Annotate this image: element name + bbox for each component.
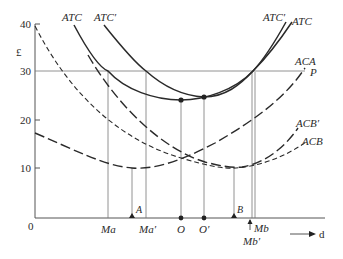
label-p: P: [309, 66, 317, 78]
label-ma: Ma: [100, 223, 116, 235]
label-mb-prime: Mb′: [242, 235, 261, 247]
y-unit-label: £: [16, 46, 22, 58]
y-ticks: [35, 24, 40, 168]
atc-prime-min-dot: [201, 94, 206, 99]
y-tick-10: 10: [20, 162, 32, 174]
aca-curve: [35, 68, 305, 168]
mb-prime-arrow-icon: [248, 219, 253, 224]
acb-prime-curve: [88, 55, 298, 167]
label-atc-prime-right: ATC′: [262, 11, 286, 23]
label-atc-left: ATC: [61, 11, 82, 23]
label-d: d: [319, 228, 325, 240]
atc-prime-curve: [104, 22, 286, 97]
label-acb-prime: ACB′: [295, 117, 320, 129]
label-a: A: [135, 204, 143, 215]
cost-curves-diagram: 40 30 20 10 0 £ Ma Ma′ O O′ A B Mb Mb′: [0, 0, 343, 259]
acb-curve: [35, 26, 306, 168]
o-axis-dot: [179, 216, 184, 221]
y-tick-40: 40: [20, 18, 32, 30]
label-acb: ACB: [301, 135, 323, 147]
label-atc-right: ATC: [291, 15, 312, 27]
y-tick-20: 20: [20, 114, 32, 126]
o-prime-axis-dot: [202, 216, 207, 221]
label-o: O: [177, 223, 185, 235]
y-tick-30: 30: [20, 65, 32, 77]
label-b: B: [237, 204, 243, 215]
origin-label: 0: [28, 220, 34, 232]
atc-min-dot: [178, 97, 183, 102]
label-o-prime: O′: [199, 223, 210, 235]
label-atc-prime-left: ATC′: [93, 11, 117, 23]
label-ma-prime: Ma′: [138, 223, 157, 235]
label-mb: Mb: [253, 222, 269, 234]
atc-curve: [74, 22, 292, 100]
a-triangle-marker: [129, 213, 135, 218]
d-arrow-icon: [309, 231, 316, 237]
